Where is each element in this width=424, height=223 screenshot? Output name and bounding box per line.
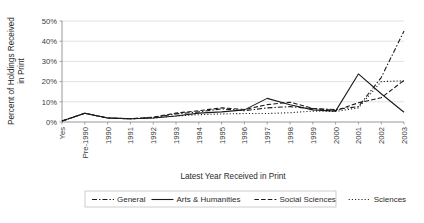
- x-tick-label: 1997: [263, 127, 272, 144]
- x-tick-label: 1993: [172, 127, 181, 144]
- chart-container: 0%10%20%30%40%50% YesPre-199019901991199…: [0, 0, 424, 223]
- legend-label: Social Sciences: [279, 195, 335, 204]
- x-tick-label: 1994: [195, 127, 204, 144]
- legend-label: Sciences: [374, 195, 406, 204]
- x-axis-tick-labels: YesPre-199019901991199219931994199519961…: [58, 127, 409, 158]
- x-tick-label: Pre-1990: [81, 127, 90, 158]
- y-tick-label: 20%: [42, 77, 57, 86]
- x-tick-label: 2000: [332, 127, 341, 144]
- y-tick-label: 10%: [42, 98, 57, 107]
- y-tick-label: 50%: [42, 17, 57, 26]
- x-tick-label: 2001: [354, 127, 363, 144]
- y-axis-tick-labels: 0%10%20%30%40%50%: [42, 17, 57, 127]
- legend-label: Arts & Humanities: [176, 195, 240, 204]
- x-tick-label: 1992: [149, 127, 158, 144]
- legend: GeneralArts & HumanitiesSocial SciencesS…: [92, 195, 406, 204]
- x-tick-label: 1991: [126, 127, 135, 144]
- x-tick-label: 2003: [400, 127, 409, 144]
- x-tick-label: 1998: [286, 127, 295, 144]
- x-tick-label: 1999: [309, 127, 318, 144]
- x-tick-label: 1996: [240, 127, 249, 144]
- y-tick-label: 30%: [42, 57, 57, 66]
- y-axis-title: Percent of Holdings Receivedin Print: [7, 17, 26, 125]
- y-tick-label: 0%: [46, 118, 57, 127]
- x-tick-label: 1990: [104, 127, 113, 144]
- x-tick-label: 1995: [218, 127, 227, 144]
- x-tick-label: Yes: [58, 127, 67, 140]
- line-chart: 0%10%20%30%40%50% YesPre-199019901991199…: [0, 0, 424, 223]
- y-tick-label: 40%: [42, 37, 57, 46]
- x-axis-title: Latest Year Received in Print: [180, 172, 286, 181]
- legend-label: General: [117, 195, 146, 204]
- x-tick-label: 2002: [377, 127, 386, 144]
